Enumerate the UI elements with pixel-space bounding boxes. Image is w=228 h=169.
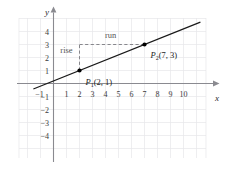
y-tick-1: 1 (45, 67, 49, 76)
annotation-rise: rise (60, 45, 73, 55)
x-tick-6: 6 (130, 90, 134, 99)
y-tick-4: 4 (45, 28, 49, 37)
x-axis-label: x (214, 93, 219, 103)
x-tick-5: 5 (117, 90, 121, 99)
y-tick--2: −2 (40, 106, 49, 115)
x-tick-3: 3 (91, 90, 95, 99)
y-tick--4: −4 (40, 132, 49, 141)
coordinate-plane-chart: −112345678910 −4−3−2−11234 riserun P1(2,… (0, 0, 228, 169)
point-label-P1: P1(2, 1) (85, 77, 113, 88)
x-tick-8: 8 (156, 90, 160, 99)
x-tick-1: 1 (65, 90, 69, 99)
y-tick--3: −3 (40, 119, 49, 128)
x-tick-4: 4 (104, 90, 108, 99)
graph-figure: −112345678910 −4−3−2−11234 riserun P1(2,… (0, 0, 228, 169)
y-tick-2: 2 (45, 54, 49, 63)
point-marker-P1 (77, 68, 81, 72)
point-marker-P2 (142, 42, 146, 46)
x-tick-2: 2 (78, 90, 82, 99)
x-tick-9: 9 (169, 90, 173, 99)
y-tick-3: 3 (45, 41, 49, 50)
point-label-P2: P2(7, 3) (150, 50, 178, 61)
x-tick-7: 7 (143, 90, 147, 99)
y-tick--1: −1 (40, 93, 49, 102)
annotation-run: run (105, 30, 117, 40)
y-axis-label: y (44, 7, 49, 17)
x-tick-10: 10 (180, 90, 188, 99)
